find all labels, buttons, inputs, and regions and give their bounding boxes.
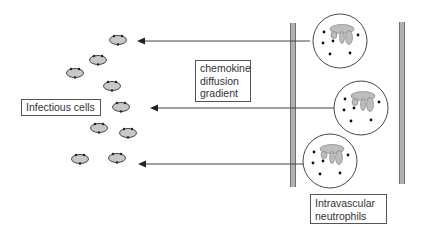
granule — [322, 42, 325, 45]
neutrophils-group — [303, 14, 388, 188]
neutrophil — [313, 14, 367, 68]
neutrophil — [334, 81, 388, 135]
granule — [312, 162, 315, 165]
vessel-wall-left — [291, 23, 296, 187]
granule — [319, 173, 322, 176]
granule — [313, 151, 316, 154]
granule — [332, 40, 335, 43]
chemokine-gradient-label: chemokine diffusion gradient — [195, 60, 251, 102]
granule — [347, 154, 350, 157]
intravascular-neutrophils-label: Intravascular neutrophils — [310, 194, 387, 224]
granule — [378, 101, 381, 104]
arrowhead-icon — [137, 38, 145, 45]
arrowhead-icon — [150, 105, 158, 112]
granule — [329, 53, 332, 56]
infectious-cell — [113, 102, 130, 113]
granule — [357, 34, 360, 37]
granule — [343, 109, 346, 112]
neutrophils-label-line1: Intravascular — [315, 197, 382, 210]
infectious-cell — [67, 68, 84, 79]
chemokine-label-line1: chemokine — [200, 62, 246, 75]
infectious-cell — [90, 55, 107, 66]
infectious-cell — [104, 81, 121, 92]
infectious-cells-label-text: Infectious cells — [26, 101, 95, 113]
vessel-wall-right — [400, 22, 405, 184]
infectious-cell — [120, 128, 137, 139]
infectious-cell — [110, 35, 127, 46]
granule — [322, 160, 325, 163]
granule — [370, 119, 373, 122]
infectious-cell — [72, 154, 89, 165]
neutrophil — [303, 134, 357, 188]
granule — [339, 172, 342, 175]
granule — [349, 52, 352, 55]
chemotaxis-arrows — [137, 38, 335, 168]
granule — [353, 107, 356, 110]
chemokine-label-line2: diffusion — [200, 75, 246, 88]
infectious-cell — [91, 123, 108, 134]
granule — [344, 98, 347, 101]
granule — [350, 120, 353, 123]
neutrophils-label-line2: neutrophils — [315, 210, 382, 223]
granule — [323, 31, 326, 34]
chemokine-label-line3: gradient — [200, 87, 246, 100]
arrowhead-icon — [138, 161, 146, 168]
infectious-cells-label: Infectious cells — [21, 99, 101, 116]
infectious-cell — [109, 153, 126, 164]
